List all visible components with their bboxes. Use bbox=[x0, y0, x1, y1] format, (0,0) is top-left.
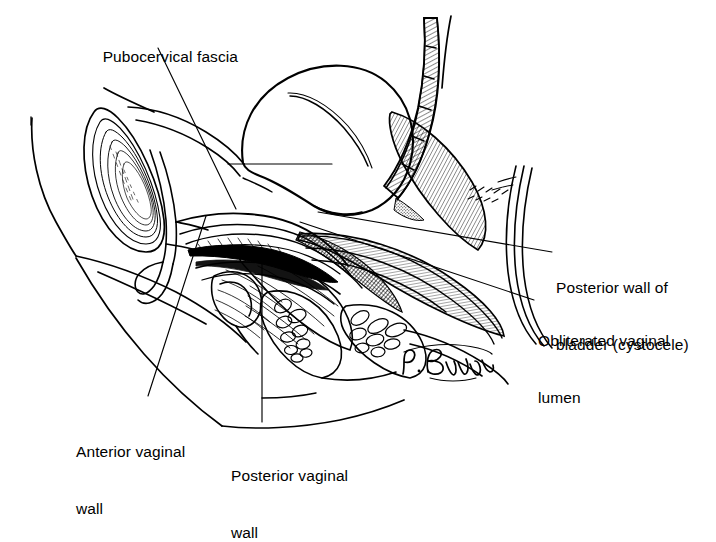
label-anterior-vaginal-wall: Anterior vaginal wall bbox=[76, 404, 185, 542]
label-anterior-vaginal-wall-line1: Anterior vaginal bbox=[76, 442, 185, 461]
label-obliterated-vaginal-lumen: Obliterated vaginal lumen bbox=[538, 293, 669, 445]
label-anterior-vaginal-wall-line2: wall bbox=[76, 499, 185, 518]
label-posterior-vaginal-wall-line1: Posterior vaginal bbox=[231, 466, 348, 485]
pubic-symphysis-group bbox=[84, 108, 164, 252]
vaginal-vault-group bbox=[212, 272, 262, 354]
label-pubocervical-fascia-text: Pubocervical fascia bbox=[103, 48, 238, 65]
anal-sphincter-bundles-group bbox=[261, 291, 426, 378]
label-posterior-vaginal-wall-line2: wall bbox=[231, 523, 348, 542]
leader-anterior-vaginal-wall bbox=[148, 216, 206, 396]
label-obliterated-vaginal-lumen-line2: lumen bbox=[538, 388, 669, 407]
label-posterior-vaginal-wall: Posterior vaginal wall bbox=[231, 428, 348, 542]
bladder-group bbox=[242, 66, 413, 215]
label-pubocervical-fascia: Pubocervical fascia bbox=[85, 28, 238, 85]
label-obliterated-vaginal-lumen-line1: Obliterated vaginal bbox=[538, 331, 669, 350]
leader-lines-group bbox=[148, 48, 552, 422]
retropubic-space-group bbox=[128, 107, 244, 303]
